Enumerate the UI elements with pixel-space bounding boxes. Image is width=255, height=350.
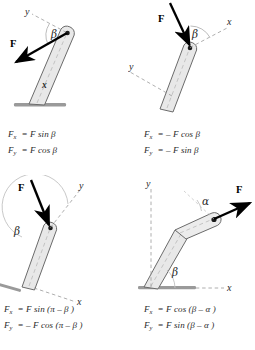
equations-bottom-left: Fx = F sin (π – β ) Fy = – F cos (π – β … <box>0 303 131 334</box>
limb-segment <box>160 42 197 112</box>
force-vector <box>214 203 250 219</box>
force-vector <box>170 3 190 45</box>
diagram-bottom-right: F y x α β <box>128 175 255 306</box>
diagram-top-right: F x y β <box>128 0 255 131</box>
equation-fx: Fx = F sin (π – β ) <box>4 303 131 319</box>
force-label: F <box>18 182 24 193</box>
equation-fy: Fy = – F cos (π – β ) <box>4 319 131 335</box>
force-label: F <box>158 13 164 24</box>
equation-fx: Fx = F sin β <box>8 128 135 144</box>
angle-label-beta: β <box>50 28 57 40</box>
equations-top-right: Fx = – F cos β Fy = – F sin β <box>128 128 255 159</box>
panel-bottom-left: F y x β Fx = F sin (π – β ) Fy = – F cos… <box>0 175 127 350</box>
limb-segment <box>22 222 57 290</box>
axis-x-label: x <box>226 16 232 27</box>
axis-y-label: y <box>78 180 84 191</box>
diagram-top-left: y β F x <box>0 0 127 131</box>
axis-x-line <box>34 288 76 302</box>
equations-top-left: Fx = F sin β Fy = F cos β <box>0 128 135 159</box>
equation-fx: Fx = F cos (β – α ) <box>144 303 255 319</box>
axis-y-label: y <box>145 178 151 189</box>
equation-fy: Fy = F cos β <box>8 144 135 160</box>
panel-top-right: F x y β Fx = – F cos β Fy = – F sin β <box>128 0 255 175</box>
force-label: F <box>236 184 242 195</box>
axis-x-label: x <box>41 80 47 90</box>
limb-segment-distal <box>175 213 221 239</box>
axis-x-label: x <box>226 282 232 293</box>
equation-fy: Fy = F sin (β – α ) <box>144 319 255 335</box>
panel-bottom-right: F y x α β Fx = F cos (β – α ) Fy = F sin… <box>128 175 255 350</box>
angle-label-beta: β <box>13 225 20 237</box>
axis-y-line <box>130 72 172 96</box>
force-label: F <box>10 38 16 49</box>
equations-bottom-right: Fx = F cos (β – α ) Fy = F sin (β – α ) <box>128 303 255 334</box>
panel-top-left: y β F x Fx = F sin β Fy = F cos β <box>0 0 127 175</box>
angle-label-beta: β <box>191 28 198 40</box>
axis-y-label: y <box>24 6 30 17</box>
ground-base <box>0 276 21 292</box>
angle-arc-beta <box>2 175 68 237</box>
joint-marker <box>48 226 53 231</box>
angle-arc-beta <box>46 24 49 45</box>
angle-arc-alpha <box>197 200 202 211</box>
figure-sheet: y β F x Fx = F sin β Fy = F cos β <box>0 0 255 350</box>
angle-label-beta: β <box>171 266 178 278</box>
diagram-bottom-left: F y x β <box>0 175 127 306</box>
axis-y-label: y <box>128 61 134 72</box>
angle-label-alpha: α <box>202 195 209 207</box>
force-vector <box>31 180 49 225</box>
alpha-reference-line <box>184 191 214 219</box>
equation-fy: Fy = – F sin β <box>144 144 255 160</box>
axis-y-line <box>51 190 81 228</box>
equation-fx: Fx = – F cos β <box>144 128 255 144</box>
